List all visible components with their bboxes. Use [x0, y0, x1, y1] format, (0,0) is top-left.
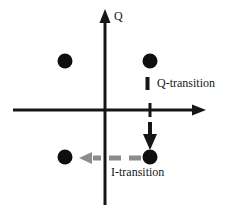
constellation-point-upper-left — [58, 54, 73, 69]
q-transition-legend-label: Q-transition — [157, 76, 215, 91]
q-transition-legend-swatch — [146, 77, 150, 90]
i-transition-arrowhead-icon — [79, 152, 92, 164]
i-axis — [13, 105, 206, 116]
constellation-point-upper-right — [143, 54, 158, 69]
constellation-diagram: Q Q-transition I-transition — [0, 0, 228, 215]
constellation-plot-area — [0, 0, 228, 215]
constellation-point-lower-left — [58, 150, 73, 165]
q-axis-label: Q — [114, 9, 123, 24]
q-axis — [100, 9, 111, 205]
i-transition-legend-label: I-transition — [111, 165, 164, 180]
q-transition-arrow — [143, 122, 157, 150]
i-transition-arrow — [79, 152, 141, 164]
constellation-point-lower-right — [143, 150, 158, 165]
q-transition-arrowhead-icon — [143, 134, 157, 150]
q-axis-arrowhead-icon — [100, 9, 111, 23]
i-axis-arrowhead-icon — [192, 105, 206, 116]
